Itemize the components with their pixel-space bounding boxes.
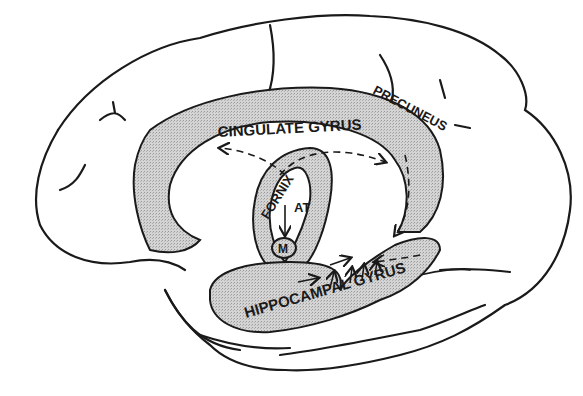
label-at: AT bbox=[294, 200, 310, 215]
brain-diagram: CINGULATE GYRUS PRECUNEUS FORNIX AT M HI… bbox=[0, 0, 583, 396]
label-m: M bbox=[278, 242, 288, 256]
